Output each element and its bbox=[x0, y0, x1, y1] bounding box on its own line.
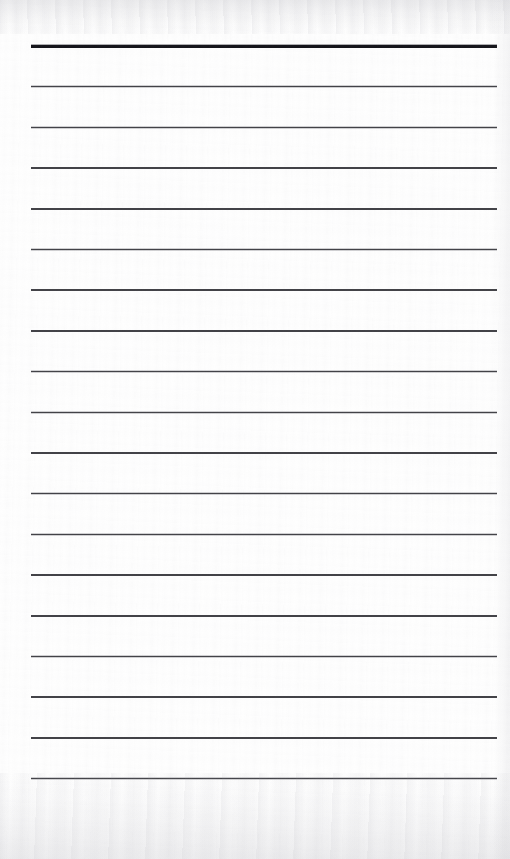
rule-line bbox=[31, 452, 497, 454]
rule-line bbox=[31, 656, 497, 658]
rule-line bbox=[31, 289, 497, 291]
rule-line bbox=[31, 249, 497, 251]
rule-line bbox=[31, 412, 497, 414]
rule-line bbox=[31, 615, 497, 617]
rule-line bbox=[31, 86, 497, 88]
rule-line bbox=[31, 534, 497, 536]
ruled-lines-layer bbox=[0, 0, 510, 859]
rule-line bbox=[31, 696, 497, 698]
scanned-page bbox=[0, 0, 510, 859]
header-rule-line bbox=[31, 45, 497, 48]
rule-line bbox=[31, 778, 497, 780]
rule-line bbox=[31, 574, 497, 576]
rule-line bbox=[31, 737, 497, 739]
rule-line bbox=[31, 127, 497, 129]
rule-line bbox=[31, 330, 497, 332]
rule-line bbox=[31, 208, 497, 210]
rule-line bbox=[31, 493, 497, 495]
rule-line bbox=[31, 371, 497, 373]
rule-line bbox=[31, 167, 497, 169]
